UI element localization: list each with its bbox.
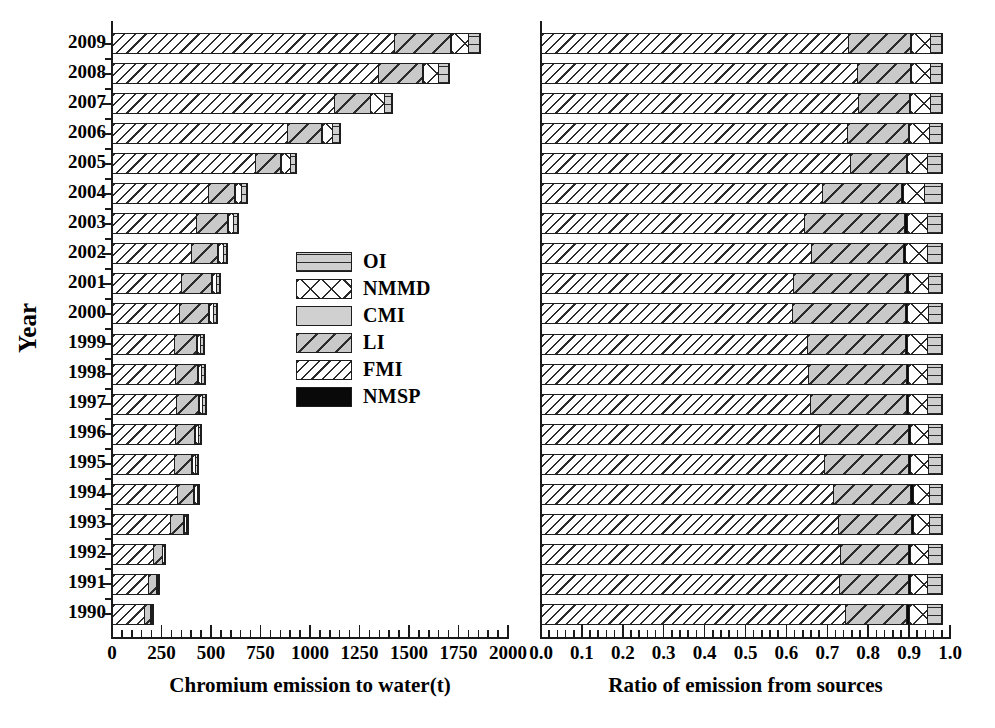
bar-ratio-1994 <box>541 484 950 505</box>
x-minor-tick <box>753 630 755 637</box>
x-minor-tick <box>630 630 632 637</box>
x-minor-tick <box>696 630 698 637</box>
y-minor-tick <box>105 268 112 270</box>
y-minor-tick <box>105 328 112 330</box>
bar-ratio-2000 <box>541 303 950 324</box>
bar-segment-LI <box>175 424 196 445</box>
x-tick-label: 1.0 <box>910 642 990 664</box>
x-major-tick <box>359 625 361 637</box>
bar-segment-CMI <box>941 213 943 234</box>
bar-segment-FMI <box>541 153 851 174</box>
bar-segment-NMMD <box>911 33 931 54</box>
bar-segment-FMI <box>541 484 834 505</box>
x-minor-tick <box>892 630 894 637</box>
legend-label-NMSP: NMSP <box>363 385 421 408</box>
bar-segment-LI <box>857 63 911 84</box>
bar-segment-CMI <box>219 273 221 294</box>
x-minor-tick <box>141 630 143 637</box>
bar-segment-LI <box>176 394 200 415</box>
bar-segment-OI <box>924 183 942 204</box>
bar-segment-FMI <box>112 63 379 84</box>
bar-segment-CMI <box>216 303 218 324</box>
bar-segment-LI <box>394 33 451 54</box>
y-major-tick <box>102 73 112 75</box>
bar-abs-1993 <box>112 514 193 535</box>
y-minor-tick <box>105 238 112 240</box>
y-major-tick <box>102 463 112 465</box>
y-minor-tick <box>105 478 112 480</box>
bar-segment-FMI <box>541 514 840 535</box>
x-minor-tick <box>369 630 371 637</box>
x-minor-tick <box>876 630 878 637</box>
x-major-tick <box>260 625 262 637</box>
bar-segment-LI <box>196 213 229 234</box>
bar-segment-CMI <box>941 514 943 535</box>
y-major-tick <box>102 523 112 525</box>
bar-ratio-1992 <box>541 544 950 565</box>
bar-segment-CMI <box>941 334 943 355</box>
bar-segment-FMI <box>112 454 175 475</box>
y-tick-label-2008: 2008 <box>0 61 106 83</box>
x-minor-tick <box>557 630 559 637</box>
bar-segment-CMI <box>164 544 166 565</box>
bar-segment-CMI <box>941 574 943 595</box>
x-minor-tick <box>573 630 575 637</box>
bar-ratio-2001 <box>541 273 950 294</box>
y-tick-label-1992: 1992 <box>0 541 106 563</box>
legend-swatch-OI <box>296 252 352 272</box>
y-tick-label-2005: 2005 <box>0 151 106 173</box>
bar-segment-LI <box>174 454 193 475</box>
y-tick-label-2007: 2007 <box>0 91 106 113</box>
x-minor-tick <box>428 630 430 637</box>
bar-segment-NMMD <box>913 484 931 505</box>
x-minor-tick <box>737 630 739 637</box>
legend-swatch-NMSP <box>296 387 352 407</box>
bar-segment-CMI <box>941 33 943 54</box>
x-minor-tick <box>230 630 232 637</box>
legend-swatch-CMI <box>296 306 352 326</box>
bar-segment-LI <box>848 33 911 54</box>
bar-segment-LI <box>792 303 906 324</box>
x-minor-tick <box>728 630 730 637</box>
chart-figure: 0250500750100012501500175020000.00.10.20… <box>0 0 995 728</box>
bar-segment-CMI <box>941 484 943 505</box>
x-major-tick <box>622 625 624 637</box>
x-minor-tick <box>818 630 820 637</box>
x-minor-tick <box>289 630 291 637</box>
bar-segment-CMI <box>226 243 228 264</box>
bar-segment-NMMD <box>905 243 928 264</box>
y-minor-tick <box>105 208 112 210</box>
y-minor-tick <box>105 118 112 120</box>
x-axis-line-ratio <box>540 637 951 639</box>
bar-segment-FMI <box>541 544 841 565</box>
y-minor-tick <box>105 358 112 360</box>
bar-segment-CMI <box>941 544 943 565</box>
x-major-tick <box>581 625 583 637</box>
bar-abs-2008 <box>112 63 456 84</box>
bar-ratio-2009 <box>541 33 950 54</box>
bar-segment-FMI <box>112 514 171 535</box>
bar-abs-1994 <box>112 484 204 505</box>
x-minor-tick <box>802 630 804 637</box>
x-minor-tick <box>597 630 599 637</box>
bar-abs-1999 <box>112 334 209 355</box>
bar-segment-CMI <box>941 364 943 385</box>
x-minor-tick <box>638 630 640 637</box>
bar-abs-1990 <box>112 604 157 625</box>
bar-segment-FMI <box>541 424 821 445</box>
x-minor-tick <box>468 630 470 637</box>
bar-segment-LI <box>179 303 210 324</box>
bar-segment-CMI <box>941 243 943 264</box>
bar-segment-NMMD <box>910 544 930 565</box>
bar-segment-LI <box>181 273 213 294</box>
y-major-tick <box>102 193 112 195</box>
y-major-tick <box>102 553 112 555</box>
bar-segment-FMI <box>112 334 175 355</box>
bar-segment-CMI <box>941 153 943 174</box>
legend-item-NMMD: NMMD <box>296 276 431 301</box>
bar-segment-CMI <box>205 394 207 415</box>
x-major-tick <box>309 625 311 637</box>
x-minor-tick <box>339 630 341 637</box>
y-tick-label-2003: 2003 <box>0 211 106 233</box>
bar-segment-FMI <box>112 273 182 294</box>
